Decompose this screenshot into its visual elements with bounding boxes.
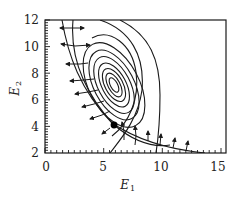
x-axis-label: E 1 bbox=[119, 178, 135, 193]
y-axis-ticks bbox=[45, 20, 50, 150]
phase-portrait-svg: 0 5 10 15 2 4 6 8 10 12 E 1 E 2 bbox=[0, 0, 238, 197]
x-tick-label-15: 15 bbox=[210, 160, 225, 174]
x-tick-label-5: 5 bbox=[99, 160, 107, 174]
y-axis-label: E 2 bbox=[8, 81, 23, 97]
svg-text:1: 1 bbox=[130, 184, 135, 193]
curve-a bbox=[62, 20, 205, 153]
y-tick-label-2: 2 bbox=[31, 146, 39, 160]
y-tick-label-10: 10 bbox=[24, 40, 39, 54]
trajectories bbox=[62, 20, 205, 153]
x-tick-label-0: 0 bbox=[42, 160, 50, 174]
y-tick-label-12: 12 bbox=[24, 13, 39, 27]
svg-text:E: E bbox=[119, 178, 129, 192]
y-tick-label-8: 8 bbox=[31, 67, 39, 81]
y-tick-label-4: 4 bbox=[31, 120, 39, 134]
x-tick-label-10: 10 bbox=[153, 160, 168, 174]
svg-text:2: 2 bbox=[14, 81, 23, 86]
direction-arrows bbox=[60, 28, 188, 151]
svg-text:E: E bbox=[8, 87, 22, 97]
fixed-point-marker bbox=[111, 122, 118, 129]
outer-trajectory-1 bbox=[120, 20, 160, 153]
phase-portrait-figure: 0 5 10 15 2 4 6 8 10 12 E 1 E 2 bbox=[0, 0, 238, 197]
y-tick-label-6: 6 bbox=[31, 93, 39, 107]
